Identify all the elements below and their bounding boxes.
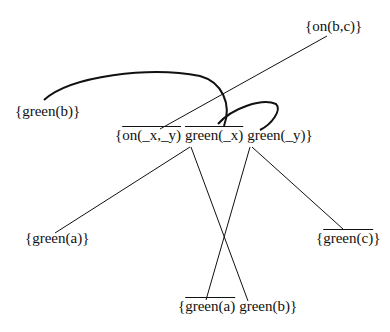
- literal-not-green-x: green(_x): [185, 127, 243, 143]
- literal-green-a: green(a): [32, 230, 82, 246]
- brace-close: }: [290, 298, 297, 314]
- edge-on-bc-to-center: [160, 36, 327, 129]
- brace-close: }: [373, 230, 380, 246]
- literal-green-y: green(_y): [247, 127, 305, 143]
- brace-close: }: [73, 103, 80, 119]
- edge-center-to-green-a: [55, 147, 190, 233]
- literal-not-green-a: green(a): [185, 298, 235, 314]
- edge-center-to-not-green-c: [252, 147, 343, 229]
- edges-layer: [0, 0, 390, 332]
- brace-close: }: [355, 18, 362, 34]
- brace-close: }: [306, 127, 313, 143]
- literal-on-b-c: on(b,c): [312, 18, 355, 34]
- literal-not-on-x-y: on(_x,_y): [122, 127, 181, 143]
- node-center-clause: {on(_x,_y)green(_x)green(_y)}: [115, 126, 313, 144]
- brace-close: }: [82, 230, 89, 246]
- node-on-b-c: {on(b,c)}: [305, 17, 362, 35]
- literal-green-b: green(b): [239, 298, 290, 314]
- node-bottom-clause: {green(a)green(b)}: [178, 297, 297, 315]
- literal-not-green-c: green(c): [323, 230, 373, 246]
- node-green-a: {green(a)}: [25, 229, 89, 247]
- node-not-green-c: {green(c)}: [316, 229, 380, 247]
- literal-green-b: green(b): [22, 103, 73, 119]
- edge-center-to-bottom-right: [191, 147, 248, 301]
- node-green-b: {green(b)}: [15, 102, 80, 120]
- edge-center-to-bottom-left: [206, 147, 250, 300]
